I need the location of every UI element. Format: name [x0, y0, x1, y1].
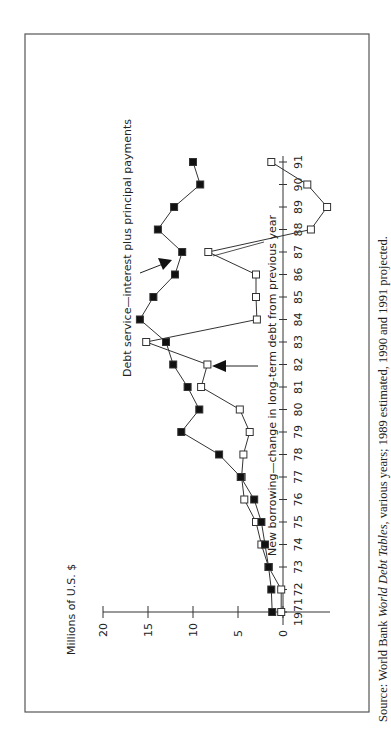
year-tick-label: 80 [292, 403, 305, 417]
new-borrowing-label: New borrowing—change in long-term debt f… [266, 214, 279, 556]
year-tick-label: 75 [292, 515, 305, 529]
open-square-marker [253, 271, 260, 278]
open-square-marker [204, 361, 211, 368]
open-square-marker [198, 384, 205, 391]
filled-square-marker [150, 294, 157, 301]
year-tick-label: 84 [292, 313, 305, 327]
open-square-marker [236, 406, 243, 413]
filled-square-marker [237, 474, 244, 481]
open-square-marker [307, 226, 314, 233]
filled-square-marker [269, 609, 276, 616]
filled-square-marker [251, 496, 258, 503]
year-tick-label: 88 [292, 223, 305, 237]
filled-square-marker [258, 519, 265, 526]
open-square-marker [246, 429, 253, 436]
year-tick-label: 82 [292, 358, 305, 372]
debt-service-label: Debt service—interest plus principal pay… [121, 119, 134, 377]
open-square-marker [268, 159, 275, 166]
year-tick-label: 76 [292, 493, 305, 507]
year-tick-label: 90 [292, 178, 305, 192]
open-square-marker [205, 249, 212, 256]
filled-square-marker [197, 181, 204, 188]
filled-square-marker [179, 249, 186, 256]
year-tick-label: 89 [292, 200, 305, 214]
open-square-marker [304, 181, 311, 188]
open-square-marker [324, 204, 331, 211]
value-tick-label: 5 [232, 630, 245, 637]
series-debt-service [136, 159, 275, 616]
filled-square-marker [172, 271, 179, 278]
year-tick-label: 77 [292, 470, 305, 484]
debt-service-arrow-icon [140, 258, 172, 273]
source-caption: Source: World Bank World Debt Tables, va… [376, 236, 390, 722]
filled-square-marker [171, 204, 178, 211]
year-tick-label: 85 [292, 290, 305, 304]
filled-square-marker [136, 316, 143, 323]
value-axis-title: Millions of U.S. $ [65, 564, 78, 655]
filled-square-marker [184, 384, 191, 391]
year-tick-label: 91 [292, 155, 305, 169]
open-square-marker [278, 586, 285, 593]
year-tick-label: 74 [292, 538, 305, 552]
value-axis: 05101520 [97, 606, 290, 637]
year-tick-label: 78 [292, 448, 305, 462]
new-borrowing-arrow-icon [212, 360, 258, 372]
year-tick-label: 1971 [292, 598, 305, 626]
filled-square-marker [196, 406, 203, 413]
value-tick-label: 20 [97, 623, 110, 637]
filled-square-marker [163, 339, 170, 346]
year-tick-label: 79 [292, 425, 305, 439]
open-square-marker [253, 316, 260, 323]
open-square-marker [240, 451, 247, 458]
value-tick-label: 0 [277, 630, 290, 637]
filled-square-marker [190, 159, 197, 166]
open-square-marker [253, 294, 260, 301]
open-square-marker [143, 339, 150, 346]
filled-square-marker [170, 361, 177, 368]
value-tick-label: 10 [187, 623, 200, 637]
filled-square-marker [268, 586, 275, 593]
year-axis: 1971727374757677787980818283848586878889… [279, 155, 330, 626]
filled-square-marker [265, 564, 272, 571]
open-square-marker [278, 609, 285, 616]
year-tick-label: 83 [292, 335, 305, 349]
filled-square-marker [178, 429, 185, 436]
filled-square-marker [154, 226, 161, 233]
year-tick-label: 72 [292, 583, 305, 597]
year-tick-label: 87 [292, 245, 305, 259]
year-tick-label: 81 [292, 380, 305, 394]
value-tick-label: 15 [142, 623, 155, 637]
chart-figure: 05101520 1971727374757677787980818283848… [0, 0, 391, 741]
open-square-marker [241, 496, 248, 503]
filled-square-marker [216, 451, 223, 458]
year-tick-label: 73 [292, 560, 305, 574]
year-tick-label: 86 [292, 268, 305, 282]
